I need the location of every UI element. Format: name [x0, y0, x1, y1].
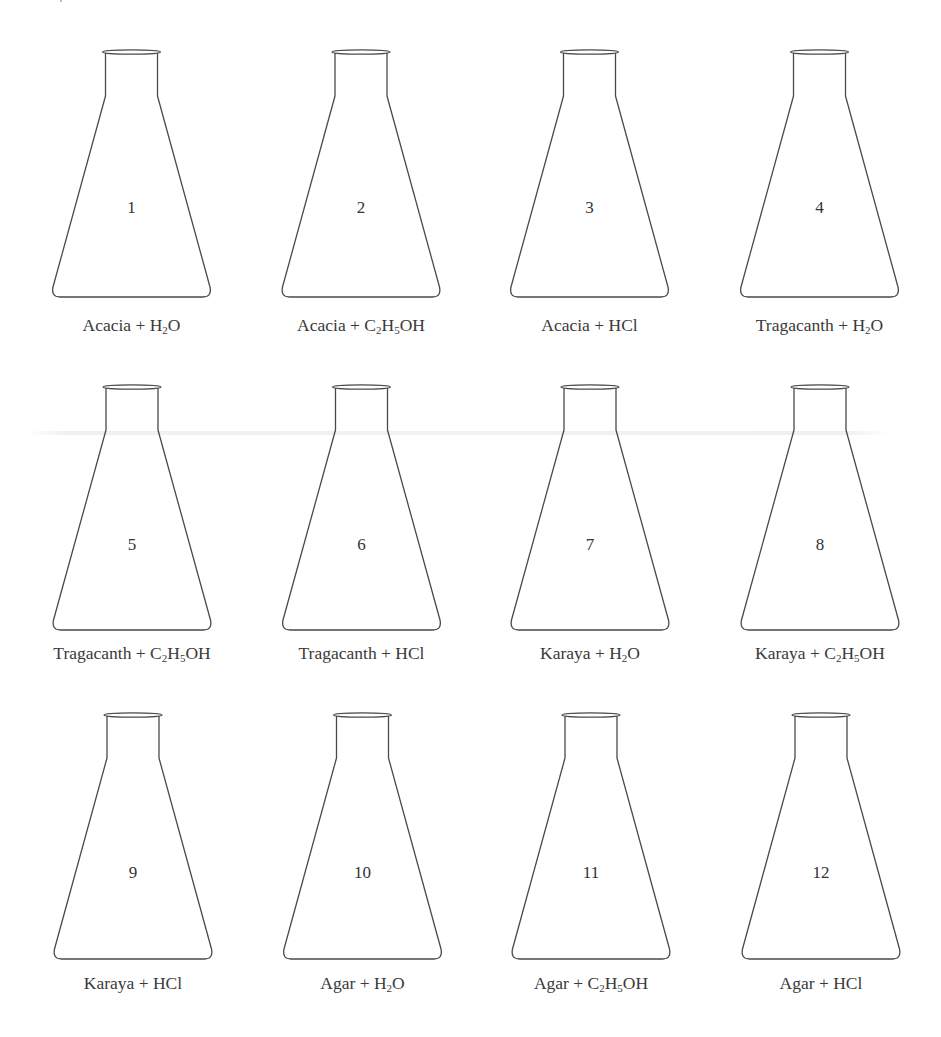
flask-number: 12	[813, 863, 830, 883]
flask-body	[741, 388, 899, 630]
flask-rim	[334, 713, 392, 717]
erlenmeyer-flask-icon	[511, 50, 669, 297]
flask-number: 2	[357, 198, 366, 218]
substance-name: Agar	[320, 973, 355, 993]
flask-number: 8	[816, 535, 825, 555]
substance-name: Karaya	[755, 643, 806, 663]
substance-name: Acacia	[83, 315, 132, 335]
reagent-formula: H2O	[609, 643, 640, 663]
erlenmeyer-flask-icon	[54, 713, 212, 959]
flask-number: 11	[583, 863, 599, 883]
substance-name: Agar	[534, 973, 569, 993]
substance-name: Tragacanth	[756, 315, 834, 335]
erlenmeyer-flask-icon	[283, 385, 441, 630]
erlenmeyer-flask-icon	[742, 713, 900, 959]
erlenmeyer-flask-icon	[741, 385, 899, 630]
substance-name: Acacia	[297, 315, 346, 335]
reagent-formula: H2O	[852, 315, 883, 335]
flask-rim	[791, 50, 849, 54]
flask-label: Agar + H2O	[320, 975, 404, 993]
flask-label: Agar + HCl	[780, 975, 863, 993]
reagent-formula: HCl	[609, 315, 638, 335]
flask-number: 7	[586, 535, 595, 555]
reagent-formula: H2O	[150, 315, 181, 335]
flask-body	[512, 716, 670, 959]
flask-rim	[103, 385, 161, 389]
flask-number: 3	[585, 198, 594, 218]
flask-rim	[103, 50, 161, 54]
substance-name: Tragacanth	[53, 643, 131, 663]
flask-label: Acacia + H2O	[83, 317, 181, 335]
scan-bleedthrough-line	[25, 431, 890, 435]
flask-rim	[561, 385, 619, 389]
substance-name: Tragacanth	[299, 643, 377, 663]
flask-number: 4	[815, 198, 824, 218]
reagent-formula: HCl	[395, 643, 424, 663]
erlenmeyer-flask-icon	[53, 385, 211, 630]
flask-label: Acacia + C2H5OH	[297, 317, 425, 335]
erlenmeyer-flask-icon	[284, 713, 442, 959]
flask-body	[511, 388, 669, 630]
flask-number: 9	[129, 863, 138, 883]
flask-body	[511, 53, 669, 297]
flask-label: Acacia + HCl	[541, 317, 637, 335]
flask-body	[741, 53, 899, 297]
flask-body	[742, 716, 900, 959]
reagent-formula: C2H5OH	[824, 643, 885, 663]
erlenmeyer-flask-icon	[53, 50, 211, 297]
flask-label: Agar + C2H5OH	[534, 975, 648, 993]
flask-rim	[332, 50, 390, 54]
erlenmeyer-flask-icon	[741, 50, 899, 297]
flask-rim	[561, 50, 619, 54]
flask-label: Karaya + C2H5OH	[755, 645, 885, 663]
reagent-formula: C2H5OH	[588, 973, 649, 993]
flask-label: Karaya + H2O	[540, 645, 640, 663]
substance-name: Karaya	[540, 643, 591, 663]
erlenmeyer-flask-icon	[282, 50, 440, 297]
flask-drawings	[0, 0, 941, 1037]
scan-speck	[60, 0, 62, 2]
flask-number: 5	[128, 535, 137, 555]
substance-name: Agar	[780, 973, 815, 993]
flask-label: Karaya + HCl	[84, 975, 182, 993]
substance-name: Acacia	[541, 315, 590, 335]
flask-body	[284, 716, 442, 959]
flask-rim	[104, 713, 162, 717]
flask-rim	[791, 385, 849, 389]
flask-rim	[562, 713, 620, 717]
erlenmeyer-flask-icon	[512, 713, 670, 959]
flask-number: 10	[354, 863, 371, 883]
flask-body	[283, 388, 441, 630]
flask-rim	[792, 713, 850, 717]
flask-body	[53, 53, 211, 297]
flask-label: Tragacanth + HCl	[299, 645, 425, 663]
flask-label: Tragacanth + C2H5OH	[53, 645, 210, 663]
flask-body	[54, 716, 212, 959]
flask-diagram: 1Acacia + H2O2Acacia + C2H5OH3Acacia + H…	[0, 0, 941, 1037]
flask-label: Tragacanth + H2O	[756, 317, 884, 335]
reagent-formula: H2O	[374, 973, 405, 993]
reagent-formula: C2H5OH	[364, 315, 425, 335]
flask-number: 6	[357, 535, 366, 555]
flask-body	[282, 53, 440, 297]
flask-rim	[333, 385, 391, 389]
flask-number: 1	[127, 198, 136, 218]
reagent-formula: C2H5OH	[150, 643, 211, 663]
substance-name: Karaya	[84, 973, 135, 993]
erlenmeyer-flask-icon	[511, 385, 669, 630]
flask-body	[53, 388, 211, 630]
reagent-formula: HCl	[153, 973, 182, 993]
reagent-formula: HCl	[833, 973, 862, 993]
